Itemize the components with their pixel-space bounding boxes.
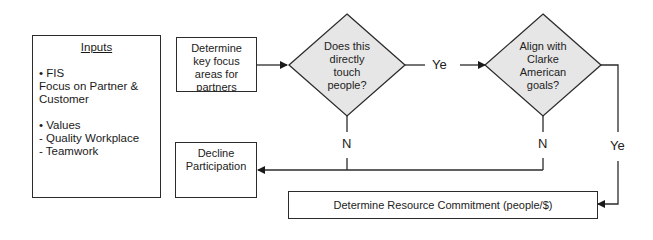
inputs-body: • FIS Focus on Partner & Customer • Valu… — [33, 67, 160, 158]
inputs-values-line-2: - Teamwork — [39, 145, 160, 158]
decision2-line-4: goals? — [508, 79, 578, 92]
determine-line-1: Determine — [177, 42, 256, 55]
decline-line-2: Participation — [176, 160, 256, 173]
decision-align-goals-text: Align with Clarke American goals? — [508, 40, 578, 92]
resource-commitment-text: Determine Resource Commitment (people/$) — [334, 199, 553, 211]
decision2-line-2: Clarke — [508, 53, 578, 66]
resource-commitment-box: Determine Resource Commitment (people/$) — [288, 191, 598, 219]
inputs-fis-line-2: Customer — [39, 93, 160, 106]
determine-line-4: partners — [177, 81, 256, 92]
decision1-line-1: Does this — [317, 40, 377, 53]
decision1-line-2: directly — [317, 53, 377, 66]
connector-yes2-top — [601, 65, 618, 132]
inputs-values-line-1: - Quality Workplace — [39, 132, 160, 145]
inputs-bullet-fis: • FIS — [39, 67, 160, 80]
edge-label-no-1: N — [342, 136, 351, 151]
edge-label-yes-1: Ye — [432, 57, 447, 72]
decision1-line-3: touch — [317, 66, 377, 79]
edge-label-yes-2: Ye — [610, 138, 625, 153]
decision2-line-1: Align with — [508, 40, 578, 53]
determine-line-3: areas for — [177, 68, 256, 81]
decision-touch-people-text: Does this directly touch people? — [317, 40, 377, 92]
decline-line-1: Decline — [176, 147, 256, 160]
decision2-line-3: American — [508, 66, 578, 79]
inputs-fis-line-1: Focus on Partner & — [39, 80, 160, 93]
inputs-title: Inputs — [33, 41, 160, 53]
decline-participation-box: Decline Participation — [175, 142, 257, 198]
inputs-bullet-values: • Values — [39, 119, 160, 132]
connector-yes2-bottom — [598, 161, 618, 204]
edge-label-no-2: N — [538, 136, 547, 151]
determine-focus-box: Determine key focus areas for partners — [176, 37, 257, 92]
decision1-line-4: people? — [317, 79, 377, 92]
inputs-box: Inputs • FIS Focus on Partner & Customer… — [32, 35, 161, 198]
determine-line-2: key focus — [177, 55, 256, 68]
